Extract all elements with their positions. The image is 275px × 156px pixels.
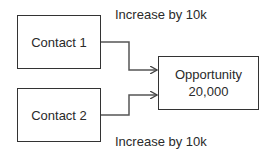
edge-contact2-to-opportunity bbox=[101, 95, 157, 115]
contact-1-label: Contact 1 bbox=[31, 34, 87, 51]
contact-2-label: Contact 2 bbox=[31, 107, 87, 124]
edge-contact1-to-opportunity bbox=[101, 42, 157, 70]
edge-label-bottom: Increase by 10k bbox=[115, 134, 207, 149]
contact-1-node: Contact 1 bbox=[17, 15, 101, 69]
contact-2-node: Contact 2 bbox=[17, 88, 101, 142]
opportunity-value: 20,000 bbox=[189, 83, 229, 100]
edge-label-top: Increase by 10k bbox=[115, 7, 207, 22]
opportunity-node: Opportunity 20,000 bbox=[158, 56, 259, 110]
opportunity-title: Opportunity bbox=[175, 66, 242, 83]
